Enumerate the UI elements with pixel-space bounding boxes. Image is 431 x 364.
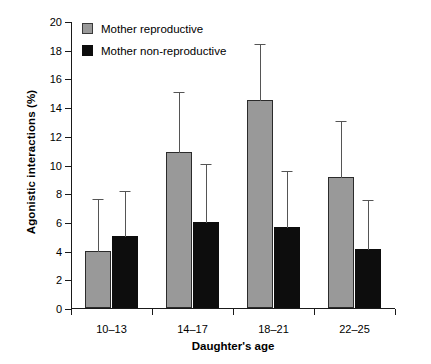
error-bar-stem <box>368 200 369 250</box>
bar-mother-non-reproductive <box>274 227 300 308</box>
bar-chart-figure: Agonistic interactions (%) 0246810121416… <box>0 0 431 364</box>
error-bar-cap <box>282 171 293 172</box>
legend-swatch-black-icon <box>82 45 93 56</box>
x-tick <box>395 309 396 315</box>
y-axis-line <box>71 22 72 309</box>
legend: Mother reproductive Mother non-reproduct… <box>82 20 226 64</box>
bar-mother-reproductive <box>85 251 111 308</box>
x-tick-label: 10–13 <box>96 323 127 335</box>
error-bar-stem <box>341 121 342 178</box>
error-bar-stem <box>287 171 288 228</box>
x-tick-label: 18–21 <box>258 323 289 335</box>
x-tick-label: 22–25 <box>339 323 370 335</box>
x-tick <box>314 309 315 315</box>
y-tick-label: 6 <box>56 217 62 229</box>
error-bar-cap <box>336 121 347 122</box>
x-tick <box>152 309 153 315</box>
y-tick-label: 4 <box>56 246 62 258</box>
error-bar-cap <box>363 200 374 201</box>
y-tick <box>65 22 71 23</box>
error-bar-cap <box>255 44 266 45</box>
y-tick-label: 12 <box>50 131 62 143</box>
legend-item-mother-reproductive: Mother reproductive <box>82 20 226 37</box>
error-bar-stem <box>98 199 99 252</box>
error-bar-cap <box>93 199 104 200</box>
error-bar-stem <box>125 191 126 237</box>
y-tick-label: 2 <box>56 274 62 286</box>
bar-mother-reproductive <box>247 100 273 308</box>
x-tick <box>71 309 72 315</box>
y-tick <box>65 108 71 109</box>
y-tick <box>65 166 71 167</box>
x-axis-title: Daughter's age <box>71 340 395 352</box>
y-tick <box>65 137 71 138</box>
y-tick <box>65 252 71 253</box>
y-tick <box>65 51 71 52</box>
y-tick-label: 18 <box>50 45 62 57</box>
plot-area: 02468101214161820 10–1314–1718–2122–25 <box>71 22 395 309</box>
y-tick <box>65 79 71 80</box>
bar-mother-reproductive <box>166 152 192 308</box>
y-tick-label: 14 <box>50 102 62 114</box>
y-tick-label: 10 <box>50 160 62 172</box>
y-axis-title: Agonistic interactions (%) <box>25 12 45 312</box>
y-tick <box>65 280 71 281</box>
x-tick-label: 14–17 <box>177 323 208 335</box>
error-bar-stem <box>260 44 261 101</box>
legend-label: Mother non-reproductive <box>101 45 226 57</box>
legend-swatch-gray-icon <box>82 23 93 34</box>
error-bar-stem <box>206 164 207 223</box>
legend-label: Mother reproductive <box>101 23 203 35</box>
error-bar-cap <box>120 191 131 192</box>
bar-mother-non-reproductive <box>112 236 138 308</box>
bar-mother-reproductive <box>328 177 354 308</box>
bar-mother-non-reproductive <box>355 249 381 308</box>
error-bar-stem <box>179 92 180 152</box>
error-bar-cap <box>201 164 212 165</box>
y-tick <box>65 223 71 224</box>
y-tick-label: 8 <box>56 188 62 200</box>
error-bar-cap <box>174 92 185 93</box>
y-tick-label: 16 <box>50 73 62 85</box>
y-tick <box>65 194 71 195</box>
x-tick <box>233 309 234 315</box>
y-tick-label: 0 <box>56 303 62 315</box>
legend-item-mother-non-reproductive: Mother non-reproductive <box>82 42 226 59</box>
bar-mother-non-reproductive <box>193 222 219 308</box>
y-tick-label: 20 <box>50 16 62 28</box>
